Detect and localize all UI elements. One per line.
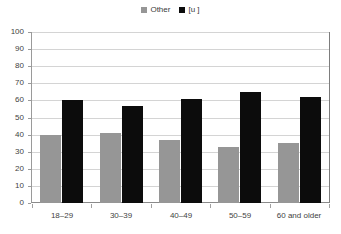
bar-u-0 [62, 100, 83, 203]
x-tick-mark [329, 204, 330, 208]
y-tick-label: 10 [15, 182, 24, 190]
x-tick-mark [91, 204, 92, 208]
x-tick-mark [270, 204, 271, 208]
x-category-label: 50–59 [229, 211, 251, 220]
bar-u-2 [181, 99, 202, 203]
bar-other-0 [40, 135, 61, 203]
bar-group [32, 32, 91, 203]
y-tick-mark [28, 203, 31, 204]
legend-entry-other: Other [141, 6, 170, 14]
y-tick-label: 50 [15, 114, 24, 122]
y-tick-label: 60 [15, 96, 24, 104]
legend-swatch-other [141, 7, 147, 13]
bar-group [91, 32, 150, 203]
bar-group [210, 32, 269, 203]
x-tick-mark [151, 204, 152, 208]
legend-swatch-u [179, 7, 185, 13]
legend-entry-u: [u ] [179, 6, 199, 14]
legend-label-other: Other [150, 6, 170, 14]
bar-group [151, 32, 210, 203]
bar-other-2 [159, 140, 180, 203]
bars-layer [32, 32, 329, 203]
x-axis: 18–2930–3940–4950–5960 and older [32, 204, 329, 226]
bar-other-3 [218, 147, 239, 203]
bar-u-3 [240, 92, 261, 203]
bar-u-4 [300, 97, 321, 203]
x-tick-mark [32, 204, 33, 208]
y-tick-label: 90 [15, 45, 24, 53]
bar-chart: Other [u ] 1009080706050403020100 18–293… [0, 0, 341, 234]
chart-legend: Other [u ] [0, 3, 341, 17]
y-tick-label: 70 [15, 79, 24, 87]
y-tick-label: 20 [15, 165, 24, 173]
y-tick-label: 100 [11, 28, 24, 36]
bar-group [270, 32, 329, 203]
bar-u-1 [122, 106, 143, 203]
y-tick-label: 40 [15, 131, 24, 139]
x-category-label: 60 and older [277, 211, 321, 220]
bar-other-1 [100, 133, 121, 203]
y-tick-label: 30 [15, 148, 24, 156]
bar-other-4 [278, 143, 299, 203]
x-category-label: 40–49 [170, 211, 192, 220]
x-tick-mark [210, 204, 211, 208]
y-axis: 1009080706050403020100 [0, 32, 31, 204]
y-tick-label: 0 [20, 199, 24, 207]
x-category-label: 30–39 [110, 211, 132, 220]
x-category-label: 18–29 [51, 211, 73, 220]
legend-label-u: [u ] [188, 6, 199, 14]
y-tick-label: 80 [15, 62, 24, 70]
